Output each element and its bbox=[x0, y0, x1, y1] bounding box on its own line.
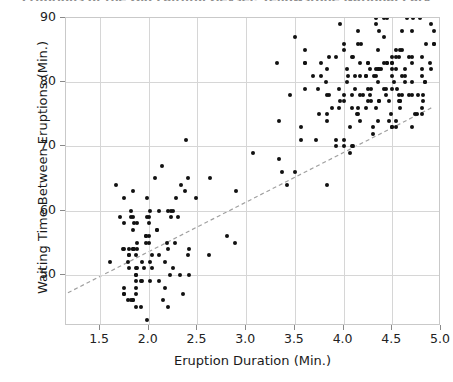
data-point bbox=[364, 74, 368, 78]
data-point bbox=[348, 125, 352, 129]
data-point bbox=[350, 106, 354, 110]
data-point bbox=[330, 106, 334, 110]
y-tick-mark bbox=[60, 145, 65, 146]
data-point bbox=[369, 87, 373, 91]
data-point bbox=[400, 74, 404, 78]
scatter-chart-figure: Eruptions of the Old Faithful Geyser, Ye… bbox=[0, 0, 453, 382]
data-point bbox=[160, 164, 164, 168]
data-point bbox=[421, 99, 425, 103]
x-tick-label: 5.0 bbox=[420, 331, 453, 346]
data-point bbox=[134, 286, 138, 290]
data-point bbox=[377, 29, 381, 33]
data-point bbox=[157, 209, 161, 213]
x-tick-label: 2.5 bbox=[176, 331, 216, 346]
data-point bbox=[334, 144, 338, 148]
data-point bbox=[439, 29, 440, 33]
data-point bbox=[356, 106, 360, 110]
data-point bbox=[420, 112, 424, 116]
data-point bbox=[358, 61, 362, 65]
data-point bbox=[398, 106, 402, 110]
data-point bbox=[342, 93, 346, 97]
data-point bbox=[387, 119, 391, 123]
data-point bbox=[131, 189, 135, 193]
gridline-horizontal bbox=[66, 275, 439, 276]
data-point bbox=[134, 292, 138, 296]
x-tick-mark bbox=[245, 325, 246, 330]
data-point bbox=[163, 260, 167, 264]
data-point bbox=[338, 22, 342, 26]
x-tick-label: 2.0 bbox=[128, 331, 168, 346]
data-point bbox=[317, 112, 321, 116]
data-point bbox=[118, 215, 122, 219]
gridline-vertical bbox=[246, 18, 247, 324]
data-point bbox=[157, 253, 161, 257]
data-point bbox=[410, 125, 414, 129]
data-point bbox=[324, 80, 328, 84]
data-point bbox=[390, 87, 394, 91]
data-point bbox=[303, 48, 307, 52]
data-point bbox=[134, 305, 138, 309]
data-point bbox=[342, 144, 346, 148]
data-point bbox=[358, 74, 362, 78]
data-point bbox=[165, 241, 169, 245]
data-point bbox=[187, 273, 191, 277]
data-point bbox=[342, 48, 346, 52]
data-point bbox=[314, 138, 318, 142]
data-point bbox=[155, 228, 159, 232]
x-tick-mark bbox=[99, 325, 100, 330]
data-point bbox=[400, 29, 404, 33]
data-point bbox=[293, 170, 297, 174]
x-tick-label: 3.5 bbox=[274, 331, 314, 346]
data-point bbox=[303, 61, 307, 65]
data-point bbox=[122, 292, 126, 296]
data-point bbox=[420, 106, 424, 110]
gridline-vertical bbox=[344, 18, 345, 324]
data-point bbox=[142, 266, 146, 270]
y-tick-mark bbox=[60, 17, 65, 18]
data-point bbox=[147, 241, 151, 245]
chart-title: Eruptions of the Old Faithful Geyser, Ye… bbox=[0, 0, 453, 1]
x-tick-label: 1.5 bbox=[79, 331, 119, 346]
data-point bbox=[150, 253, 154, 257]
data-point bbox=[410, 29, 414, 33]
data-point bbox=[187, 247, 191, 251]
data-point bbox=[134, 279, 138, 283]
data-point bbox=[277, 119, 281, 123]
data-point bbox=[178, 273, 182, 277]
data-point bbox=[288, 93, 292, 97]
data-point bbox=[327, 55, 331, 59]
data-point bbox=[420, 74, 424, 78]
data-point bbox=[168, 273, 172, 277]
data-point bbox=[405, 17, 409, 20]
data-point bbox=[147, 221, 151, 225]
data-point bbox=[148, 279, 152, 283]
data-point bbox=[337, 87, 341, 91]
data-point bbox=[346, 74, 350, 78]
data-point bbox=[345, 80, 349, 84]
data-point bbox=[251, 151, 255, 155]
data-point bbox=[303, 87, 307, 91]
gridline-horizontal bbox=[66, 146, 439, 147]
data-point bbox=[325, 67, 329, 71]
data-point bbox=[400, 93, 404, 97]
data-point bbox=[299, 138, 303, 142]
data-point bbox=[299, 125, 303, 129]
data-point bbox=[392, 80, 396, 84]
data-point bbox=[395, 87, 399, 91]
data-point bbox=[148, 209, 152, 213]
data-point bbox=[122, 196, 126, 200]
data-point bbox=[432, 29, 436, 33]
data-point bbox=[173, 241, 177, 245]
trend-line-segment bbox=[68, 108, 431, 293]
gridline-horizontal bbox=[66, 211, 439, 212]
data-point bbox=[207, 253, 211, 257]
data-point bbox=[171, 209, 175, 213]
data-point bbox=[277, 157, 281, 161]
data-point bbox=[403, 80, 407, 84]
x-axis-label: Eruption Duration (Min.) bbox=[65, 353, 440, 368]
x-tick-label: 4.0 bbox=[323, 331, 363, 346]
data-point bbox=[311, 74, 315, 78]
data-point bbox=[374, 22, 378, 26]
data-point bbox=[342, 138, 346, 142]
data-point bbox=[390, 74, 394, 78]
